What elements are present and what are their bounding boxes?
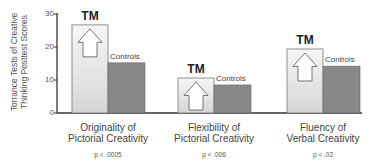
p-value-label: p < .02: [268, 151, 378, 158]
category-label: Flexibility ofPictorial Creativity: [159, 122, 269, 144]
tm-bar-label: TM: [286, 33, 324, 47]
category-label: Fluency ofVerbal Creativity: [268, 122, 378, 144]
category-label: Originality ofPictorial Creativity: [53, 122, 163, 144]
tm-creativity-bar-chart: Torrance Tests of Creative Thinking Post…: [0, 0, 379, 168]
p-value-label: p < .006: [159, 151, 269, 158]
p-value-label: p < .0005: [53, 151, 163, 158]
bar-controls: [108, 63, 145, 113]
controls-bar-label: Controls: [216, 74, 246, 83]
bar-controls: [214, 85, 251, 113]
tm-bar-label: TM: [71, 9, 109, 23]
controls-bar-label: Controls: [110, 52, 140, 61]
tm-bar-label: TM: [177, 62, 215, 76]
controls-bar-label: Controls: [325, 55, 355, 64]
bar-controls: [323, 66, 360, 113]
